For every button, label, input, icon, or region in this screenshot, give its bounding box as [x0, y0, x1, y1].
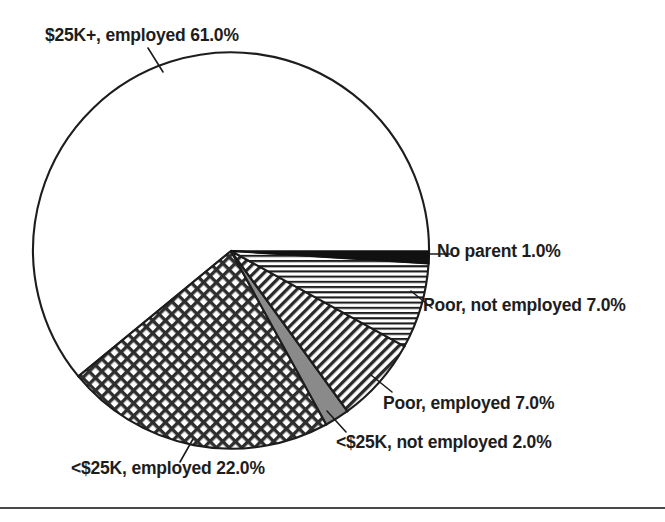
pie-label-25kplus-employed: $25K+, employed 61.0% [45, 27, 239, 45]
pie-chart-figure: $25K+, employed 61.0% No parent 1.0% Poo… [0, 0, 665, 522]
pie-label-lt25k-not-employed: <$25K, not employed 2.0% [336, 434, 552, 452]
pie-label-no-parent: No parent 1.0% [437, 243, 561, 261]
pie-chart-svg [0, 0, 665, 522]
pie-label-poor-not-employed: Poor, not employed 7.0% [423, 297, 626, 315]
pie-label-lt25k-employed: <$25K, employed 22.0% [71, 460, 265, 478]
bottom-divider-rule [0, 507, 665, 509]
pie-label-poor-employed: Poor, employed 7.0% [383, 395, 554, 413]
